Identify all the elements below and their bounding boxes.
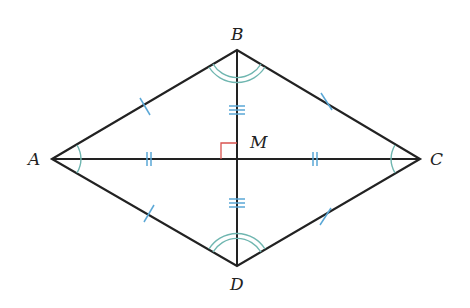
- vertex-label-c: C: [430, 149, 443, 169]
- intersection-label-m: M: [249, 132, 268, 152]
- vertex-label-a: A: [26, 149, 40, 169]
- right-angle-mark: [221, 143, 237, 159]
- vertex-label-b: B: [230, 24, 244, 44]
- rhombus-diagram: A B C D M: [0, 0, 470, 308]
- vertex-label-d: D: [229, 274, 244, 294]
